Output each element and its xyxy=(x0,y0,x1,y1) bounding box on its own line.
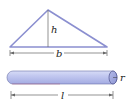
radius-label: r xyxy=(120,72,126,83)
triangle-outline xyxy=(10,10,107,47)
height-label: h xyxy=(51,24,57,35)
geometry-figure: h b r l xyxy=(0,0,130,103)
cylinder: r xyxy=(7,71,126,84)
triangle: h xyxy=(10,10,107,47)
length-label: l xyxy=(61,90,64,101)
base-dimension: b xyxy=(10,48,107,59)
length-dimension: l xyxy=(11,89,113,101)
base-label: b xyxy=(56,48,62,59)
cylinder-body xyxy=(7,71,117,84)
